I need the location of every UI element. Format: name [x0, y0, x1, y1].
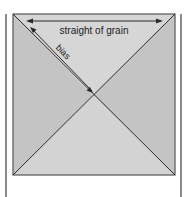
right-side-bar	[180, 14, 182, 197]
bias-grain-diagram: straight of grain bias	[0, 0, 184, 197]
left-side-bar	[5, 14, 7, 197]
straight-grain-label: straight of grain	[60, 25, 129, 36]
